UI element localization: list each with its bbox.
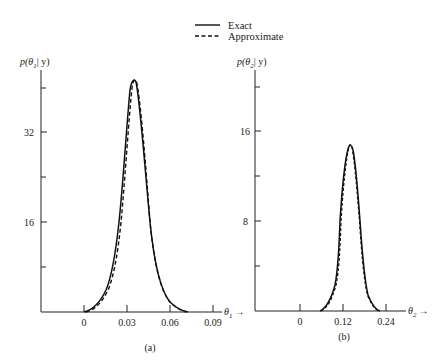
panel-a-y-ticks	[41, 88, 47, 267]
panel-a-caption: (a)	[144, 342, 155, 354]
panel-b-ytick-8: 8	[243, 216, 248, 227]
legend-label-approximate: Approximate	[228, 31, 284, 42]
panel-b-y-ticks	[255, 87, 261, 266]
panel-b-ytick-16: 16	[240, 126, 250, 137]
panel-a: p(θ1| y) 32 16 0 0.03 0.06 0.09 θ1→ (a)	[19, 56, 244, 354]
panel-a-approximate-curve	[86, 80, 186, 312]
legend-label-exact: Exact	[228, 20, 252, 31]
panel-b-ylabel: p(θ2| y)	[236, 56, 267, 70]
panel-b-xtick-024: 0.24	[377, 316, 395, 327]
panel-a-x-ticks	[84, 305, 213, 312]
panel-a-xtick-009: 0.09	[204, 317, 222, 328]
panel-b-caption: (b)	[338, 331, 350, 343]
panel-a-xlabel: θ1→	[224, 306, 244, 320]
panel-b-xtick-012: 0.12	[334, 316, 352, 327]
panel-a-ytick-16: 16	[24, 217, 34, 228]
figure: Exact Approximate p(θ1| y) 32 16 0 0.03	[0, 0, 448, 361]
panel-b-exact-curve	[320, 145, 380, 311]
panel-a-ytick-32: 32	[24, 127, 34, 138]
panel-b-approximate-curve	[321, 145, 380, 311]
panel-a-xtick-006: 0.06	[161, 317, 179, 328]
panel-a-exact-curve	[84, 80, 188, 312]
panel-a-xtick-0: 0	[82, 317, 87, 328]
legend: Exact Approximate	[195, 20, 284, 42]
panel-a-xtick-003: 0.03	[118, 317, 136, 328]
panel-b-xlabel: θ2→	[408, 305, 428, 319]
panel-b-xtick-0: 0	[298, 316, 303, 327]
panel-b: p(θ2| y) 16 8 0 0.12 0.24 θ2→ (b)	[236, 56, 428, 343]
panel-a-ylabel: p(θ1| y)	[19, 56, 50, 70]
